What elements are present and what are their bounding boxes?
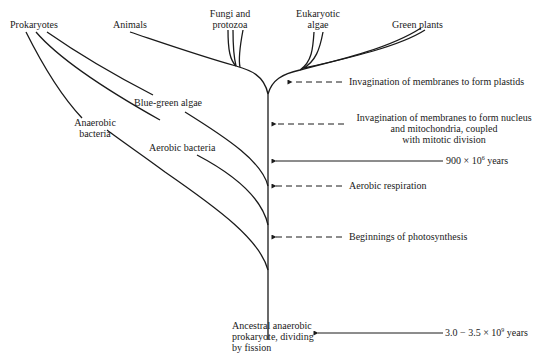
label-event-aerobic-respiration: Aerobic respiration — [349, 180, 426, 191]
label-euk-line1: Eukaryotic — [288, 8, 348, 19]
label-root-line2: prokaryote, dividing — [232, 331, 314, 342]
label-fungi-line2: protozoa — [200, 19, 260, 30]
label-nucleus-line3: with mitotic division — [346, 134, 542, 145]
label-root-line3: by fission — [232, 342, 314, 353]
label-time-900my: 900 × 106 years — [446, 155, 508, 166]
branch-euk-1 — [300, 32, 314, 70]
label-green-plants: Green plants — [392, 19, 443, 30]
branch-animals — [130, 32, 268, 94]
time-3-base: 3.0 − 3.5 × 10 — [445, 327, 501, 338]
phylogenetic-tree — [0, 0, 548, 363]
label-blue-green-algae: Blue-green algae — [134, 97, 202, 108]
label-anaerobic-line1: Anaerobic — [70, 117, 120, 128]
label-root-line1: Ancestral anaerobic — [232, 320, 314, 331]
branch-blue-green-upper — [47, 32, 153, 95]
label-event-photosynthesis: Beginnings of photosynthesis — [349, 231, 467, 242]
label-time-3by: 3.0 − 3.5 × 109 years — [445, 327, 528, 338]
branch-animals-2 — [239, 30, 243, 67]
branch-anaerobic-upper — [26, 32, 82, 118]
label-event-plastids: Invagination of membranes to form plasti… — [349, 76, 524, 87]
label-event-nucleus: Invagination of membranes to form nucleu… — [346, 112, 542, 145]
time-900-base: 900 × 10 — [446, 155, 482, 166]
label-nucleus-line1: Invagination of membranes to form nucleu… — [346, 112, 542, 123]
label-fungi-line1: Fungi and — [200, 8, 260, 19]
label-aerobic-bacteria: Aerobic bacteria — [149, 142, 215, 153]
label-fungi-protozoa: Fungi and protozoa — [200, 8, 260, 30]
label-prokaryotes: Prokaryotes — [10, 19, 58, 30]
branch-fungi-2 — [233, 30, 236, 66]
label-eukaryotic-algae: Eukaryotic algae — [288, 8, 348, 30]
label-animals: Animals — [113, 19, 147, 30]
label-root-ancestor: Ancestral anaerobic prokaryote, dividing… — [232, 320, 314, 353]
label-anaerobic-line2: bacteria — [70, 128, 120, 139]
label-nucleus-line2: and mitochondria, coupled — [346, 123, 542, 134]
label-euk-line2: algae — [288, 19, 348, 30]
label-anaerobic-bacteria: Anaerobic bacteria — [70, 117, 120, 139]
time-900-unit: years — [485, 155, 509, 166]
time-3-unit: years — [504, 327, 528, 338]
